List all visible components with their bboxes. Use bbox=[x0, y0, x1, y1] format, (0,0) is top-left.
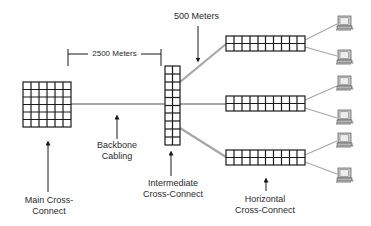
backbone-cabling-label: Backbone Cabling bbox=[92, 140, 142, 162]
intermediate-label-line1: Intermediate bbox=[140, 178, 206, 189]
cable-to-hc1 bbox=[180, 44, 226, 82]
cable-ws5 bbox=[305, 141, 337, 155]
computer-icon bbox=[336, 168, 353, 183]
computer-icon bbox=[336, 16, 353, 31]
computer-icon bbox=[336, 50, 353, 65]
horizontal-cross-connect-3 bbox=[226, 150, 305, 165]
computer-icon bbox=[336, 133, 353, 148]
main-cross-connect-label: Main Cross- Connect bbox=[16, 195, 82, 217]
cable-to-hc3 bbox=[180, 128, 226, 157]
cable-ws1 bbox=[305, 24, 337, 40]
horizontal-label-line1: Horizontal bbox=[232, 194, 298, 205]
intermediate-cross-connect-panel bbox=[165, 66, 180, 145]
workstations bbox=[336, 16, 353, 183]
horizontal-cross-connect-label: Horizontal Cross-Connect bbox=[232, 194, 298, 216]
intermediate-cross-connect-label: Intermediate Cross-Connect bbox=[140, 178, 206, 200]
cable-ws4 bbox=[305, 108, 337, 118]
horizontal-cables bbox=[305, 24, 337, 174]
backbone-label-line1: Backbone bbox=[92, 140, 142, 151]
cable-ws6 bbox=[305, 162, 337, 174]
computer-icon bbox=[336, 110, 353, 125]
backbone-label-line2: Cabling bbox=[92, 151, 142, 162]
horizontal-distance-label: 500 Meters bbox=[174, 11, 234, 22]
cable-ws3 bbox=[305, 86, 337, 100]
horizontal-cross-connect-1 bbox=[226, 36, 305, 51]
backbone-distance-label: 2500 Meters bbox=[88, 48, 141, 59]
cable-ws2 bbox=[305, 47, 337, 56]
main-label-line2: Connect bbox=[16, 206, 82, 217]
computer-icon bbox=[336, 76, 353, 91]
horizontal-label-line2: Cross-Connect bbox=[232, 205, 298, 216]
main-cross-connect-panel bbox=[23, 82, 71, 127]
main-label-line1: Main Cross- bbox=[16, 195, 82, 206]
intermediate-label-line2: Cross-Connect bbox=[140, 189, 206, 200]
horizontal-cross-connect-2 bbox=[226, 96, 305, 111]
